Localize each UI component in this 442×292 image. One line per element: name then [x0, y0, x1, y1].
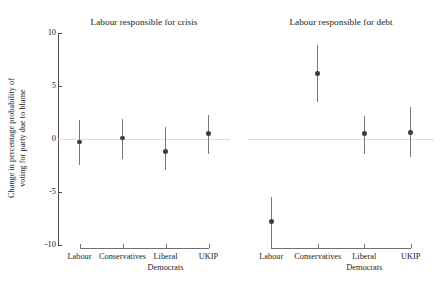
x-axis-tick-label: LiberalDemocrats	[148, 252, 184, 273]
x-axis-tick	[209, 244, 210, 248]
y-axis-tick-label: 10	[48, 28, 56, 37]
x-axis-tick-label-line: Labour	[259, 252, 283, 263]
panel-title: Labour responsible for debt	[248, 17, 434, 28]
chart-panel: Labour responsible for crisisLabourConse…	[58, 0, 230, 292]
y-axis-tick-label: 5	[52, 81, 56, 90]
x-axis-tick-label-line: Labour	[68, 252, 92, 263]
y-axis-label-line-1: Change in percentage probability of	[7, 78, 18, 198]
x-axis-tick	[123, 244, 124, 248]
y-axis-label: Change in percentage probability of voti…	[2, 28, 32, 248]
x-axis-line	[80, 248, 209, 249]
x-axis-tick-label: UKIP	[199, 252, 218, 263]
plot-area	[248, 33, 434, 245]
x-axis-tick-label: Labour	[68, 252, 92, 263]
data-point	[120, 136, 125, 141]
x-axis-tick-label-line: Liberal	[346, 252, 382, 263]
x-axis-tick	[80, 244, 81, 248]
data-point	[206, 131, 211, 136]
x-axis-tick	[166, 244, 167, 248]
x-axis-tick-label: UKIP	[401, 252, 420, 263]
x-axis-line	[271, 248, 411, 249]
data-point	[163, 149, 168, 154]
data-point	[408, 130, 413, 135]
data-point	[269, 219, 274, 224]
panel-title: Labour responsible for crisis	[58, 17, 230, 28]
y-axis-tick-label: 0	[52, 134, 56, 143]
coefficient-plot-figure: Change in percentage probability of voti…	[0, 0, 442, 292]
x-axis-tick-label-line: Democrats	[148, 263, 184, 274]
zero-reference-line	[248, 139, 434, 140]
x-axis-tick-label: Conservatives	[294, 252, 341, 263]
x-axis-tick-label-line: Democrats	[346, 263, 382, 274]
x-axis-tick-label-line: Conservatives	[294, 252, 341, 263]
x-axis-tick-label-line: UKIP	[401, 252, 420, 263]
x-axis-tick	[271, 244, 272, 248]
x-axis-tick-label-line: Conservatives	[99, 252, 146, 263]
x-axis-tick-label: Conservatives	[99, 252, 146, 263]
x-axis-tick-label: Labour	[259, 252, 283, 263]
chart-panel: Labour responsible for debtLabourConserv…	[248, 0, 434, 292]
y-axis-tick-label: -5	[49, 187, 56, 196]
y-axis-tick-label: -10	[45, 240, 56, 249]
x-axis-tick-label: LiberalDemocrats	[346, 252, 382, 273]
x-axis-tick	[318, 244, 319, 248]
data-point	[362, 131, 367, 136]
data-point	[77, 140, 82, 145]
x-axis-tick	[364, 244, 365, 248]
x-axis-tick	[411, 244, 412, 248]
x-axis-tick-label-line: UKIP	[199, 252, 218, 263]
plot-area	[58, 33, 230, 245]
y-axis-label-line-2: voting for party due to blame	[17, 78, 28, 198]
x-axis-tick-label-line: Liberal	[148, 252, 184, 263]
zero-reference-line	[58, 139, 230, 140]
data-point	[315, 71, 320, 76]
